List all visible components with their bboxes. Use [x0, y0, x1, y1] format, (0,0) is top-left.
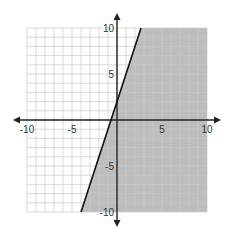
arrow-right-icon — [214, 117, 221, 124]
inequality-graph: -10-5510105-5-10 — [0, 0, 229, 240]
x-tick-label: -5 — [68, 124, 77, 135]
x-tick-label: 10 — [201, 124, 213, 135]
arrow-up-icon — [114, 13, 121, 20]
y-tick-label: -10 — [100, 207, 115, 218]
y-tick-label: -5 — [105, 161, 114, 172]
x-tick-label: -10 — [20, 124, 35, 135]
x-tick-label: 5 — [159, 124, 165, 135]
arrow-down-icon — [114, 220, 121, 227]
arrow-left-icon — [13, 117, 20, 124]
y-tick-label: 5 — [108, 69, 114, 80]
y-tick-label: 10 — [103, 23, 115, 34]
